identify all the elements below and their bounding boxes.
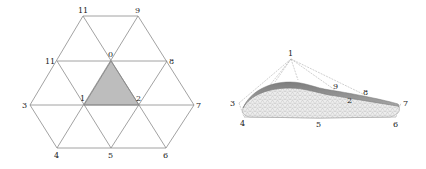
surface-label-9: 9: [333, 82, 338, 91]
shaded-triangle-0-1-2: [84, 61, 139, 105]
edge-3-4: [30, 105, 57, 148]
vertex-label-7: 7: [196, 101, 201, 110]
vertex-label-3: 3: [22, 101, 27, 110]
surface-label-7: 7: [403, 99, 408, 108]
surface-label-4: 4: [240, 119, 245, 128]
surface-label-1: 1: [288, 49, 293, 58]
edge-3-11-10: [30, 16, 83, 105]
vertex-label-8: 8: [169, 57, 174, 66]
vertex-label-9: 9: [135, 6, 140, 15]
vertex-label-6: 6: [163, 151, 168, 160]
edge-9-8-7: [138, 16, 194, 105]
surface-label-5: 5: [316, 120, 321, 129]
surface-3d: 1 3 4 5 6 7 9 8 2: [230, 49, 408, 129]
vertex-label-5: 5: [108, 151, 113, 160]
vertex-label-0: 0: [108, 50, 113, 59]
surface-label-2: 2: [347, 96, 352, 105]
surface-label-3: 3: [230, 99, 235, 108]
planar-mesh: 11 9 11 0 8 3 1 2 7 4 5 6: [22, 6, 201, 160]
vertex-label-1: 1: [80, 94, 85, 103]
vertex-label-2: 2: [136, 94, 141, 103]
surface-label-6: 6: [393, 120, 398, 129]
surface-label-8: 8: [363, 88, 368, 97]
vertex-label-11: 11: [45, 57, 55, 66]
edge-6-7: [166, 105, 194, 148]
edge-4-1-0-9: [57, 16, 138, 148]
vertex-label-10: 11: [78, 6, 88, 15]
vertex-label-4: 4: [54, 151, 59, 160]
figure-canvas: 11 9 11 0 8 3 1 2 7 4 5 6 1: [0, 0, 426, 169]
